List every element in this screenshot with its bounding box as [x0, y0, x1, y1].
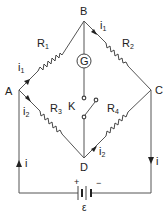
key-contact-bottom	[82, 115, 86, 119]
arrow-i2-ad	[25, 95, 31, 102]
current-label-i-right: i	[156, 155, 158, 167]
label-r2: R2	[122, 37, 134, 50]
node-label-a: A	[5, 85, 13, 97]
node-label-b: B	[80, 5, 87, 17]
resistor-r1	[38, 53, 62, 71]
current-label-i2-dc: i2	[99, 145, 105, 158]
key-label: K	[68, 100, 76, 112]
battery-emf-label: ε	[82, 202, 87, 213]
node-label-d: D	[80, 161, 88, 173]
node-label-c: C	[155, 84, 163, 96]
key-contact-lever	[94, 98, 98, 102]
arrow-i1-bc	[91, 29, 97, 35]
arrow-i2-dc	[91, 146, 97, 152]
current-label-i1-bc: i1	[100, 19, 106, 32]
battery-plus-label: +	[74, 177, 79, 187]
galvanometer-label: G	[80, 55, 89, 67]
label-r3: R3	[50, 102, 62, 115]
arrow-i-left	[16, 160, 22, 167]
label-r1: R1	[37, 37, 49, 50]
key-contact-top	[82, 96, 86, 100]
key-lever[interactable]	[85, 102, 95, 115]
current-label-i1-ab: i1	[18, 61, 24, 74]
label-r4: R4	[107, 102, 119, 115]
battery-minus-label: −	[96, 178, 101, 188]
wheatstone-bridge-diagram: A B C D R1 R2 R3 R4 G K i1 i1 i2 i2 i i …	[0, 0, 168, 218]
resistor-r4	[106, 112, 128, 136]
current-label-i-left: i	[25, 157, 27, 169]
current-label-i2-ad: i2	[23, 105, 29, 118]
battery-cell	[78, 186, 91, 200]
galvanometer-branch	[77, 21, 98, 158]
battery-loop	[19, 90, 151, 200]
arrow-i-right	[148, 157, 154, 164]
